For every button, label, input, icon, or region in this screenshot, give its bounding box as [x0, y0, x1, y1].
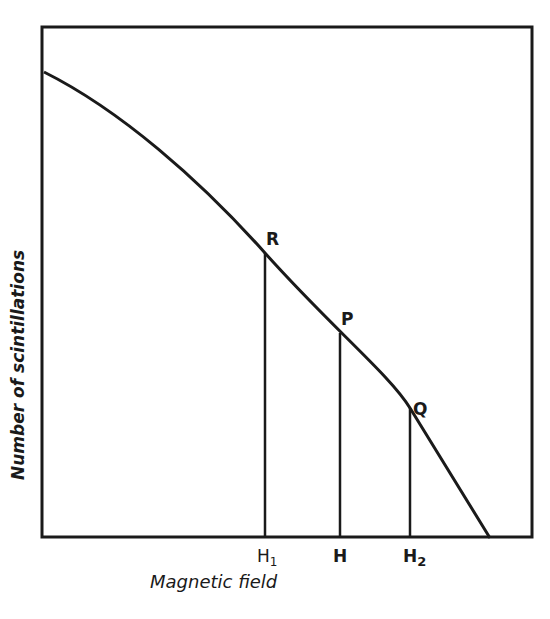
- point-label-r: R: [266, 229, 279, 249]
- point-label-p: P: [341, 309, 353, 329]
- scintillation-diagram: R P Q H1 H H2 Magnetic field Number of s…: [0, 0, 550, 619]
- y-axis-title: Number of scintillations: [8, 250, 28, 480]
- x-axis-title: Magnetic field: [150, 571, 278, 592]
- scintillation-curve: [44, 72, 490, 538]
- tick-label-h: H: [333, 546, 347, 566]
- plot-frame: [42, 27, 532, 537]
- point-label-q: Q: [413, 399, 427, 419]
- tick-label-h1: H1: [257, 546, 277, 569]
- tick-label-h2: H2: [403, 546, 426, 569]
